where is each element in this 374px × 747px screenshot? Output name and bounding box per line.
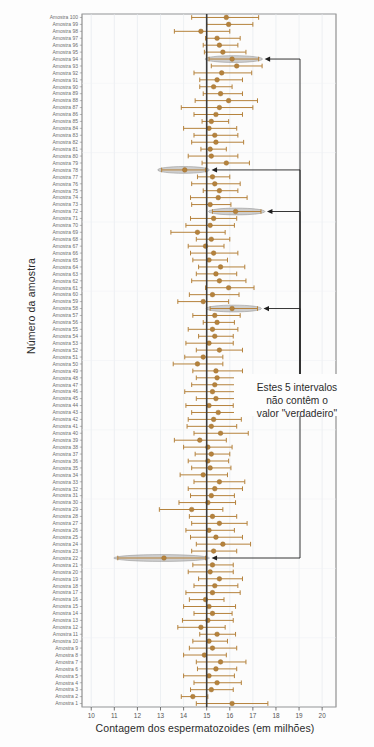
annotation-line-1: Estes 5 intervalos [228,381,366,394]
x-tick-label-18: 18 [267,712,285,719]
annotation-line-2: não contêm o [228,394,366,407]
x-tick-label-15: 15 [198,712,216,719]
x-axis-tick-labels: 1011121314151617181920 [0,0,374,747]
x-tick-label-16: 16 [221,712,239,719]
x-tick-label-20: 20 [313,712,331,719]
x-tick-label-10: 10 [82,712,100,719]
x-tick-label-19: 19 [290,712,308,719]
x-tick-label-12: 12 [128,712,146,719]
x-tick-label-11: 11 [105,712,123,719]
x-axis-title: Contagem dos espermatozoides (em milhões… [80,722,330,734]
annotation-line-3: valor "verdadeiro" [228,407,366,420]
x-tick-label-14: 14 [175,712,193,719]
annotation-text: Estes 5 intervalosnão contêm ovalor "ver… [228,381,366,421]
y-axis-title: Número da amostra [25,246,37,366]
x-tick-label-17: 17 [244,712,262,719]
confidence-interval-chart: Amostra 100Amostra 99Amostra 98Amostra 9… [0,0,374,747]
x-tick-label-13: 13 [152,712,170,719]
